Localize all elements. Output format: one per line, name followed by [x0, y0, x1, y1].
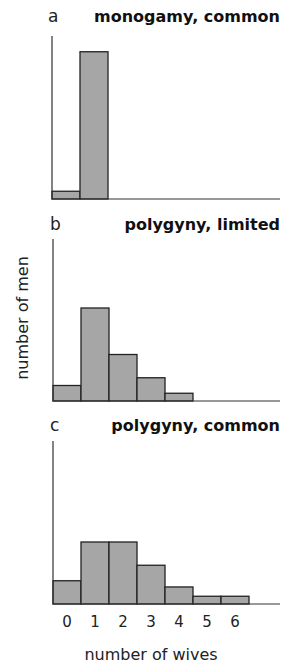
bar-4-wives — [165, 393, 193, 401]
bar-2-wives — [109, 542, 137, 604]
y-axis-label: number of men — [13, 256, 32, 380]
chart-figure: number of men a monogamy, common b polyg… — [0, 0, 288, 668]
bar-1-wives — [80, 52, 108, 199]
panel-b-title: polygyny, limited — [124, 215, 280, 234]
x-tick-labels: 0123456 — [62, 613, 240, 631]
x-axis-label: number of wives — [84, 645, 217, 664]
x-tick-5: 5 — [202, 613, 212, 631]
bar-1-wives — [81, 308, 109, 401]
panel-a: a monogamy, common — [48, 6, 280, 199]
x-tick-6: 6 — [230, 613, 240, 631]
panel-b-bars — [53, 308, 193, 401]
bar-3-wives — [137, 378, 165, 401]
panel-a-bars — [52, 52, 108, 199]
panel-a-letter: a — [48, 6, 58, 26]
x-tick-3: 3 — [146, 613, 156, 631]
bar-0-wives — [53, 386, 81, 402]
bar-1-wives — [81, 542, 109, 604]
x-tick-0: 0 — [62, 613, 72, 631]
panel-b-letter: b — [50, 214, 61, 234]
x-tick-4: 4 — [174, 613, 184, 631]
bar-3-wives — [137, 565, 165, 604]
panel-a-title: monogamy, common — [94, 7, 280, 26]
x-tick-1: 1 — [90, 613, 100, 631]
bar-0-wives — [53, 581, 81, 604]
bar-2-wives — [109, 355, 137, 402]
bar-0-wives — [52, 191, 80, 199]
panel-c-letter: c — [50, 415, 59, 435]
panel-b: b polygyny, limited — [50, 214, 280, 401]
bar-4-wives — [165, 587, 193, 604]
bar-5-wives — [193, 596, 221, 604]
bar-6-wives — [221, 596, 249, 604]
panel-c-title: polygyny, common — [111, 416, 280, 435]
x-tick-2: 2 — [118, 613, 128, 631]
panel-c-bars — [53, 542, 249, 604]
panel-c: c polygyny, common — [50, 415, 280, 604]
